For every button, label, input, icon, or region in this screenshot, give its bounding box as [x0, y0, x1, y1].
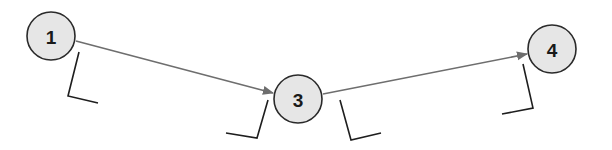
node-3: 3 [274, 75, 322, 123]
node-1-label: 1 [46, 27, 57, 48]
edge-3-to-4 [323, 54, 527, 94]
edge-1-to-3 [76, 41, 273, 93]
blank-bracket-node-3-left [226, 100, 268, 138]
node-3-label: 3 [293, 90, 304, 111]
blank-bracket-node-4-below [502, 64, 533, 114]
node-4-label: 4 [547, 40, 558, 61]
blank-bracket-node-1-below [68, 52, 98, 103]
node-4: 4 [528, 25, 576, 73]
node-1: 1 [27, 12, 75, 60]
blank-bracket-node-3-right [340, 100, 381, 140]
network-diagram: 1 3 4 [0, 0, 612, 150]
